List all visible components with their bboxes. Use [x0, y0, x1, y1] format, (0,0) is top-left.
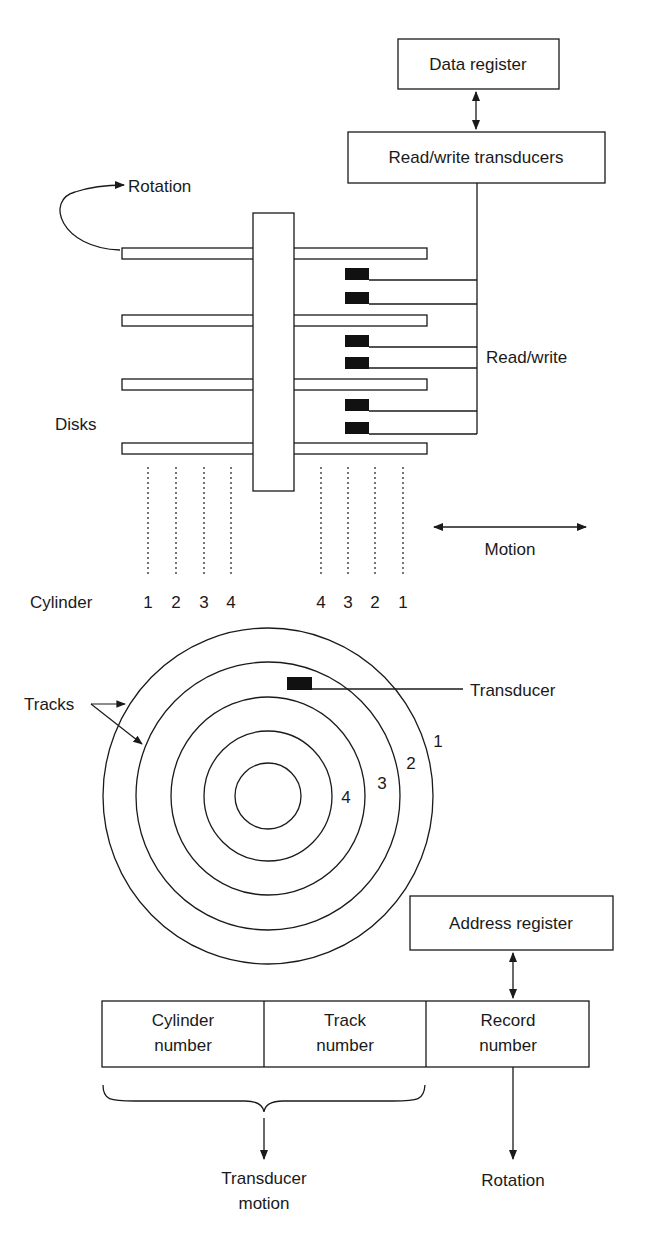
disk-tracks [103, 628, 433, 964]
rotation-arrow-icon [60, 185, 124, 250]
address-format-box: Cylinder number Track number Record numb… [102, 1001, 589, 1067]
track-number: 2 [406, 754, 415, 773]
disks-label: Disks [55, 415, 97, 434]
address-register-box: Address register [410, 896, 613, 950]
track-number-field: Track [324, 1011, 366, 1030]
track-number: 1 [433, 732, 442, 751]
head-icon [345, 422, 369, 434]
cylinder-numbers-right: 4 3 2 1 [316, 593, 407, 612]
head-icon [345, 268, 369, 280]
track-ring [171, 697, 365, 895]
read-write-heads [345, 268, 477, 434]
read-write-label: Read/write [486, 348, 567, 367]
head-icon [345, 335, 369, 347]
head-icon [345, 292, 369, 304]
transducer-motion-label-line2: motion [238, 1194, 289, 1213]
cylinder-number: 2 [171, 593, 180, 612]
transducer-label: Transducer [470, 681, 556, 700]
track-number: 4 [341, 788, 350, 807]
transducer-head-icon [287, 677, 312, 690]
brace-icon [103, 1085, 425, 1112]
track-ring [103, 628, 433, 964]
rotation-bottom-label: Rotation [481, 1171, 544, 1190]
rotation-top-label: Rotation [128, 177, 191, 196]
cylinder-number: 4 [316, 593, 325, 612]
disk-storage-diagram: Data register Read/write transducers Rot… [0, 0, 649, 1243]
field-subtitle: number [479, 1036, 537, 1055]
spindle-hole [235, 763, 301, 829]
track-ring [136, 662, 400, 930]
head-icon [345, 399, 369, 411]
rw-transducers-box: Read/write transducers [348, 132, 605, 183]
address-register-label: Address register [449, 914, 573, 933]
tracks-arrow-icon [91, 704, 142, 744]
cylinder-number: 3 [199, 593, 208, 612]
transducer-motion-label-line1: Transducer [221, 1169, 307, 1188]
field-subtitle: number [316, 1036, 374, 1055]
data-register-label: Data register [429, 55, 527, 74]
record-number-field: Record [481, 1011, 536, 1030]
track-numbers: 1 2 3 4 [341, 732, 442, 807]
head-icon [345, 357, 369, 369]
cylinder-number: 3 [343, 593, 352, 612]
track-ring [204, 731, 332, 861]
cylinder-number: 4 [226, 593, 235, 612]
motion-label: Motion [484, 540, 535, 559]
cylinder-numbers-left: 1 2 3 4 [143, 593, 235, 612]
cylinder-number: 1 [143, 593, 152, 612]
cylinder-number: 1 [398, 593, 407, 612]
field-subtitle: number [154, 1036, 212, 1055]
spindle [253, 213, 294, 491]
tracks-label: Tracks [24, 695, 74, 714]
cylinder-number-field: Cylinder [152, 1011, 215, 1030]
rw-transducers-label: Read/write transducers [389, 148, 564, 167]
data-register-box: Data register [398, 39, 559, 89]
cylinder-number: 2 [370, 593, 379, 612]
track-number: 3 [377, 774, 386, 793]
cylinder-label: Cylinder [30, 593, 93, 612]
